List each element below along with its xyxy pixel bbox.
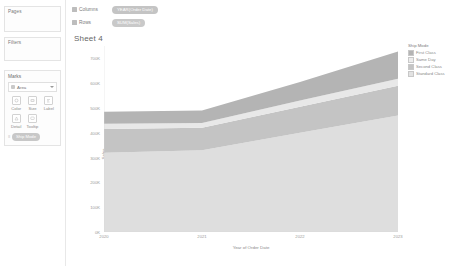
- filters-shelf[interactable]: Filters: [4, 37, 61, 61]
- area-series-group: [104, 51, 398, 232]
- marks-property-tooltip[interactable]: Tooltip: [24, 114, 40, 129]
- color-legend-icon: ⁝⁝: [8, 134, 10, 139]
- legend-item-label: Standard Class: [416, 71, 445, 76]
- y-tick-label: 500K: [90, 106, 100, 111]
- marks-card-title: Marks: [8, 74, 57, 79]
- area-mark-icon: [11, 85, 15, 89]
- marks-property-detail-label: Detail: [11, 124, 21, 129]
- y-tick-label: 100K: [90, 205, 100, 210]
- detail-icon: [12, 114, 21, 123]
- x-tick-label: 2020: [99, 234, 108, 239]
- stacked-area-chart: [104, 46, 398, 232]
- rows-shelf[interactable]: Rows SUM(Sales): [72, 18, 464, 27]
- marks-property-label[interactable]: Label: [41, 96, 57, 111]
- x-tick-label: 2021: [197, 234, 206, 239]
- size-icon: [28, 96, 37, 105]
- marks-property-size[interactable]: Size: [24, 96, 40, 111]
- x-axis-ticks: 2020202120222023: [104, 234, 398, 242]
- legend-title: Ship Mode: [408, 43, 466, 48]
- columns-icon: [72, 7, 77, 12]
- x-tick-label: 2022: [295, 234, 304, 239]
- mark-type-value: Area: [17, 85, 26, 90]
- marks-property-size-label: Size: [29, 106, 37, 111]
- legend-swatch: [408, 57, 414, 63]
- columns-shelf[interactable]: Columns YEAR(Order Date): [72, 5, 464, 14]
- visualization-area: Ship Mode First Class Same Day Second Cl…: [66, 42, 470, 266]
- marks-property-color-label: Color: [11, 106, 21, 111]
- rows-shelf-label: Rows: [79, 20, 91, 25]
- marks-properties: Color Size Label: [8, 96, 57, 132]
- legend-item[interactable]: Standard Class: [408, 71, 466, 77]
- mark-type-dropdown[interactable]: Area: [8, 82, 57, 92]
- marks-property-label-label: Label: [44, 106, 54, 111]
- legend-swatch: [408, 64, 414, 70]
- marks-encoding-pill[interactable]: Ship Mode: [12, 133, 40, 141]
- legend-item-label: Second Class: [416, 64, 442, 69]
- y-tick-label: 700K: [90, 56, 100, 61]
- color-legend: Ship Mode First Class Same Day Second Cl…: [408, 43, 466, 78]
- columns-field-pill[interactable]: YEAR(Order Date): [112, 6, 158, 14]
- pages-shelf[interactable]: Pages: [4, 6, 61, 32]
- legend-item-label: First Class: [416, 50, 436, 55]
- label-icon: [44, 96, 53, 105]
- y-tick-label: 200K: [90, 180, 100, 185]
- marks-property-detail[interactable]: Detail: [8, 114, 24, 129]
- marks-property-tooltip-label: Tooltip: [27, 124, 39, 129]
- marks-encoding-row: ⁝⁝ Ship Mode: [8, 133, 57, 141]
- tableau-worksheet: Pages Filters Marks Area Color: [0, 0, 470, 266]
- legend-item-label: Same Day: [416, 57, 436, 62]
- legend-item[interactable]: First Class: [408, 50, 466, 56]
- tooltip-icon: [28, 114, 37, 123]
- y-tick-label: 600K: [90, 81, 100, 86]
- y-axis-ticks: 700K600K500K400K300K200K100K0K: [66, 42, 102, 266]
- rows-field-pill[interactable]: SUM(Sales): [112, 19, 145, 27]
- plot-area[interactable]: [104, 46, 398, 232]
- marks-card: Marks Area Color: [4, 70, 61, 146]
- left-sidebar: Pages Filters Marks Area Color: [0, 0, 66, 266]
- y-tick-label: 300K: [90, 155, 100, 160]
- y-tick-label: 400K: [90, 130, 100, 135]
- columns-shelf-label: Columns: [79, 7, 98, 12]
- filters-shelf-label: Filters: [8, 40, 21, 45]
- chevron-down-icon: [50, 86, 54, 88]
- x-tick-label: 2023: [393, 234, 402, 239]
- marks-property-color[interactable]: Color: [8, 96, 24, 111]
- shelves-area: Columns YEAR(Order Date) Rows SUM(Sales): [66, 0, 470, 31]
- legend-item[interactable]: Second Class: [408, 64, 466, 70]
- pages-shelf-label: Pages: [8, 9, 22, 14]
- x-axis-title: Year of Order Date: [104, 245, 398, 250]
- color-icon: [12, 96, 21, 105]
- legend-swatch: [408, 50, 414, 56]
- legend-swatch: [408, 71, 414, 77]
- legend-item[interactable]: Same Day: [408, 57, 466, 63]
- workspace: Columns YEAR(Order Date) Rows SUM(Sales)…: [66, 0, 470, 266]
- rows-icon: [72, 20, 77, 25]
